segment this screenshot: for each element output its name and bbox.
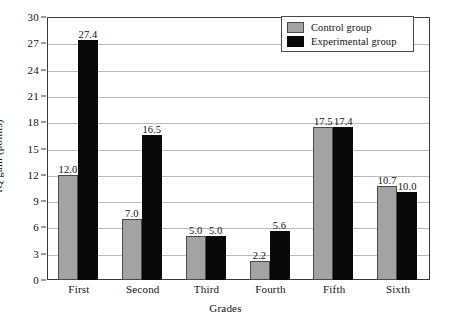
y-tick-mark xyxy=(41,43,46,44)
bar-value-label: 5.0 xyxy=(209,225,222,236)
legend-swatch-control-icon xyxy=(287,22,304,33)
x-tick-label: Fourth xyxy=(255,283,286,295)
y-tick-label: 21 xyxy=(28,90,39,102)
bar-group: 2.25.6 xyxy=(239,17,303,280)
legend-label-experimental: Experimental group xyxy=(311,36,396,47)
bar-value-label: 10.7 xyxy=(378,175,397,186)
bar-control: 7.0 xyxy=(122,219,142,280)
bar-value-label: 17.4 xyxy=(334,116,353,127)
legend-item-control: Control group xyxy=(287,20,408,34)
x-tick-label: First xyxy=(68,283,89,295)
y-tick-mark xyxy=(41,95,46,96)
bar-value-label: 7.0 xyxy=(125,208,138,219)
bar-value-label: 12.0 xyxy=(59,164,78,175)
bar-control: 5.0 xyxy=(186,236,206,280)
y-tick-mark xyxy=(41,201,46,202)
bar-value-label: 2.2 xyxy=(253,250,266,261)
bar-group: 5.05.0 xyxy=(175,17,239,280)
iq-gain-bar-chart: IQ gain (points) 302724211815129630 12.0… xyxy=(0,0,451,327)
bars-layer: 12.027.47.016.55.05.02.25.617.517.410.71… xyxy=(47,17,430,280)
legend-swatch-experimental-icon xyxy=(287,36,304,47)
bar-group: 17.517.4 xyxy=(302,17,366,280)
legend-item-experimental: Experimental group xyxy=(287,34,408,48)
bar-experimental: 10.0 xyxy=(397,192,417,280)
bar-control: 12.0 xyxy=(58,175,78,280)
x-tick-label: Second xyxy=(126,283,160,295)
y-tick-mark xyxy=(41,280,46,281)
bar-value-label: 27.4 xyxy=(79,29,98,40)
y-tick-label: 3 xyxy=(33,248,39,260)
x-tick-label: Third xyxy=(194,283,219,295)
y-tick-label: 12 xyxy=(28,169,39,181)
y-tick-mark xyxy=(41,17,46,18)
bar-group: 10.710.0 xyxy=(366,17,430,280)
y-axis-ticks: 302724211815129630 xyxy=(0,17,45,280)
bar-experimental: 17.4 xyxy=(333,127,353,280)
bar-experimental: 27.4 xyxy=(78,40,98,280)
y-tick-label: 18 xyxy=(28,116,39,128)
y-tick-mark xyxy=(41,227,46,228)
bar-value-label: 10.0 xyxy=(398,181,417,192)
chart-legend: Control group Experimental group xyxy=(281,16,414,52)
y-tick-mark xyxy=(41,122,46,123)
y-tick-label: 6 xyxy=(33,221,39,233)
bar-control: 17.5 xyxy=(313,127,333,280)
legend-label-control: Control group xyxy=(311,22,372,33)
y-tick-mark xyxy=(41,69,46,70)
bar-group: 12.027.4 xyxy=(47,17,111,280)
y-tick-label: 30 xyxy=(28,11,39,23)
y-tick-mark xyxy=(41,174,46,175)
y-tick-label: 27 xyxy=(28,37,39,49)
bar-value-label: 5.6 xyxy=(273,220,286,231)
x-tick-label: Sixth xyxy=(386,283,410,295)
x-axis-title: Grades xyxy=(0,302,451,314)
bar-group: 7.016.5 xyxy=(111,17,175,280)
y-tick-label: 9 xyxy=(33,195,39,207)
bar-value-label: 16.5 xyxy=(142,124,161,135)
y-tick-mark xyxy=(41,148,46,149)
y-tick-label: 0 xyxy=(33,274,39,286)
bar-control: 10.7 xyxy=(377,186,397,280)
y-tick-label: 15 xyxy=(28,143,39,155)
bar-experimental: 16.5 xyxy=(142,135,162,280)
bar-experimental: 5.0 xyxy=(206,236,226,280)
bar-experimental: 5.6 xyxy=(270,231,290,280)
x-tick-label: Fifth xyxy=(323,283,345,295)
y-tick-mark xyxy=(41,253,46,254)
bar-control: 2.2 xyxy=(250,261,270,280)
y-tick-label: 24 xyxy=(28,64,39,76)
bar-value-label: 17.5 xyxy=(314,116,333,127)
bar-value-label: 5.0 xyxy=(189,225,202,236)
x-axis-ticks: FirstSecondThirdFourthFifthSixth xyxy=(47,283,430,301)
